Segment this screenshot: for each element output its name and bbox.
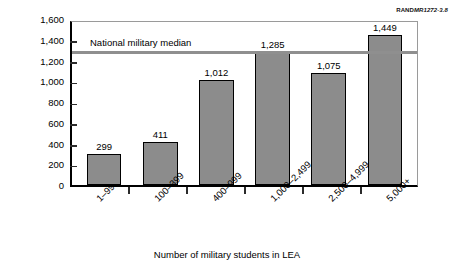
- y-axis-tick-mark: [70, 83, 77, 85]
- y-axis-tick-mark: [70, 124, 77, 126]
- bar: 1,449: [368, 35, 403, 185]
- y-axis-tick-label: 1,200: [18, 56, 64, 67]
- national-military-median-line: [72, 51, 417, 54]
- bar: 1,285: [255, 52, 290, 185]
- bar: 1,075: [311, 73, 346, 185]
- x-axis-tick: [186, 187, 188, 194]
- source-identifier-prefix: RAND: [396, 7, 414, 13]
- bar: 299: [87, 154, 122, 185]
- y-axis-tick-label: 800: [18, 97, 64, 108]
- source-identifier: RANDMR1272-3.8: [396, 7, 448, 13]
- bar-value-label: 299: [96, 141, 112, 152]
- y-axis-tick-label: 0: [18, 180, 64, 191]
- y-axis-tick-mark: [70, 145, 77, 147]
- chart-figure: RANDMR1272-3.8 Median LOT payment per WF…: [0, 0, 454, 269]
- x-axis-tick: [128, 187, 130, 194]
- y-axis-tick-label: 400: [18, 139, 64, 150]
- bar-slot: 1,285: [245, 22, 301, 185]
- y-axis-tick-mark: [70, 104, 77, 106]
- y-axis-tick-mark: [70, 166, 77, 168]
- y-axis-tick-label: 600: [18, 118, 64, 129]
- bar-slot: 1,012: [188, 22, 244, 185]
- y-axis-tick-label: 200: [18, 159, 64, 170]
- national-military-median-label: National military median: [90, 37, 191, 48]
- bar-slot: 1,075: [301, 22, 357, 185]
- bar-value-label: 411: [153, 129, 168, 140]
- y-axis-tick-mark: [70, 41, 77, 43]
- x-axis-tick: [302, 187, 304, 194]
- bar-value-label: 1,075: [317, 60, 341, 71]
- y-axis-tick-label: 1,400: [18, 35, 64, 46]
- x-axis-tick: [360, 187, 362, 194]
- bar-value-label: 1,449: [373, 22, 397, 33]
- bar-value-label: 1,012: [205, 67, 229, 78]
- x-axis-tick: [244, 187, 246, 194]
- bar-value-label: 1,285: [261, 39, 285, 50]
- y-axis-tick-label: 1,600: [18, 14, 64, 25]
- bar: 1,012: [199, 80, 234, 185]
- source-identifier-number: MR1272-3.8: [414, 7, 448, 13]
- y-axis-tick-mark: [70, 62, 77, 64]
- x-axis-title: Number of military students in LEA: [0, 249, 454, 260]
- y-axis-tick-label: 1,000: [18, 76, 64, 87]
